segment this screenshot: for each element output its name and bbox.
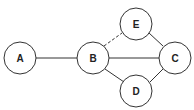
edge-b-e-dashed bbox=[104, 33, 122, 46]
node-d-label: D bbox=[132, 86, 139, 97]
node-d: D bbox=[120, 75, 152, 107]
node-b-label: B bbox=[89, 53, 96, 64]
node-a: A bbox=[4, 42, 36, 74]
node-c: C bbox=[159, 42, 191, 74]
edge-d-c bbox=[150, 69, 163, 82]
edge-b-d bbox=[105, 69, 124, 82]
graph-diagram: A B C D E bbox=[0, 0, 194, 110]
node-e-label: E bbox=[133, 19, 140, 30]
node-c-label: C bbox=[171, 53, 178, 64]
node-b: B bbox=[77, 42, 109, 74]
node-a-label: A bbox=[16, 53, 23, 64]
edge-e-c bbox=[149, 33, 163, 46]
nodes: A B C D E bbox=[4, 8, 191, 107]
node-e: E bbox=[120, 8, 152, 40]
